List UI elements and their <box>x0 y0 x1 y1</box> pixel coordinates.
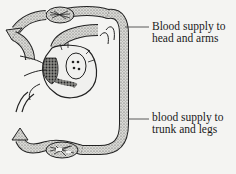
label-bottom-line2: trunk and legs <box>152 123 224 135</box>
label-top-line2: head and arms <box>152 32 225 44</box>
label-top-line1: Blood supply to <box>152 20 225 32</box>
label-head-and-arms: Blood supply to head and arms <box>152 20 225 44</box>
label-trunk-and-legs: blood supply to trunk and legs <box>152 111 224 135</box>
lower-circuit <box>12 128 82 158</box>
heart <box>43 30 98 98</box>
circulation-diagram: Blood supply to head and arms blood supp… <box>0 0 236 174</box>
left-vessels <box>14 36 46 112</box>
label-bottom-line1: blood supply to <box>152 111 224 123</box>
